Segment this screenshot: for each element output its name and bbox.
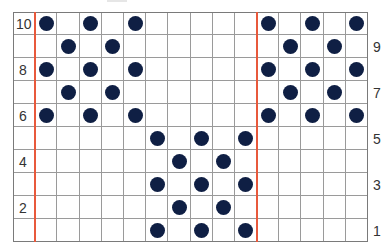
stitch-dot (39, 108, 54, 123)
row-label-right: 5 (373, 131, 381, 147)
stitch-dot (194, 177, 209, 192)
stitch-dot (128, 16, 143, 31)
stitch-dot (261, 108, 276, 123)
red-boundary-line (34, 12, 36, 242)
row-label-left: 10 (16, 16, 32, 32)
stitch-dot (39, 62, 54, 77)
row-label-right: 1 (373, 223, 381, 239)
row-label-left: 6 (19, 108, 27, 124)
stitch-dot (128, 62, 143, 77)
stitch-dot (172, 200, 187, 215)
row-label-left: 4 (19, 154, 27, 170)
red-boundary-line (256, 12, 258, 242)
stitch-dot (39, 16, 54, 31)
stitch-dot (305, 108, 320, 123)
row-label-right: 9 (373, 39, 381, 55)
stitch-dot (283, 85, 298, 100)
row-label-right: 3 (373, 177, 381, 193)
stitch-dot (128, 108, 143, 123)
stitch-dot (150, 223, 165, 238)
stitch-dot (305, 16, 320, 31)
stitch-dot (150, 131, 165, 146)
stitch-dot (305, 62, 320, 77)
row-label-left: 2 (19, 200, 27, 216)
stitch-dot (172, 154, 187, 169)
stitch-dot (61, 85, 76, 100)
stitch-dot (150, 177, 165, 192)
stitch-dot (194, 131, 209, 146)
stitch-dot (283, 39, 298, 54)
top-mark (107, 0, 127, 2)
stitch-dot (194, 223, 209, 238)
stitch-dot (261, 16, 276, 31)
row-label-right: 7 (373, 85, 381, 101)
row-label-left: 8 (19, 62, 27, 78)
stitch-dot (61, 39, 76, 54)
stitch-dot (261, 62, 276, 77)
